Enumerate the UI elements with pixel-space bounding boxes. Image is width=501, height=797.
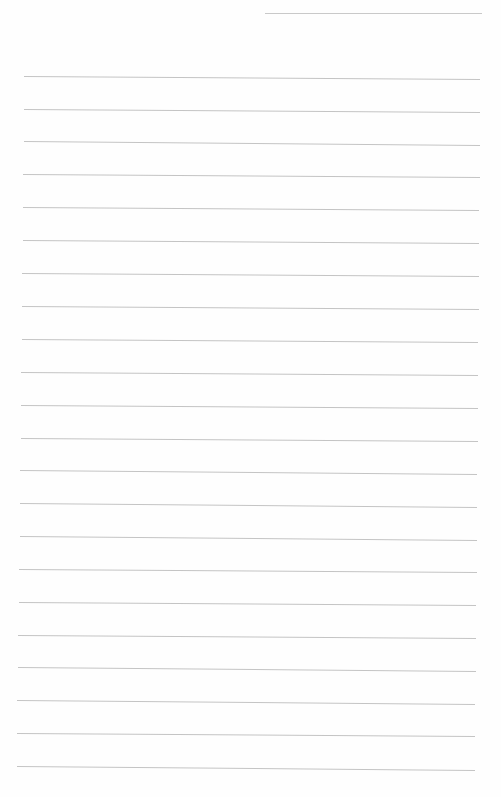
ruled-line (21, 405, 478, 409)
ruled-line (17, 733, 475, 737)
ruled-line (23, 240, 479, 244)
ruled-line (24, 141, 480, 146)
ruled-line (17, 766, 475, 771)
ruled-line (22, 306, 479, 310)
ruled-line (20, 470, 477, 475)
lined-paper-page (0, 0, 501, 797)
ruled-line (21, 438, 478, 442)
ruled-line (22, 273, 479, 277)
ruled-line (24, 109, 480, 113)
ruled-line (20, 503, 477, 508)
ruled-line (19, 569, 477, 573)
ruled-line (19, 602, 476, 606)
ruled-line (23, 207, 479, 211)
ruled-line (22, 339, 478, 343)
ruled-line (18, 635, 476, 639)
ruled-line (20, 536, 477, 541)
ruled-line (23, 174, 480, 178)
ruled-line (17, 700, 475, 705)
header-rule (265, 13, 482, 14)
ruled-line (24, 76, 480, 80)
ruled-line (21, 372, 478, 376)
ruled-line (18, 667, 476, 672)
